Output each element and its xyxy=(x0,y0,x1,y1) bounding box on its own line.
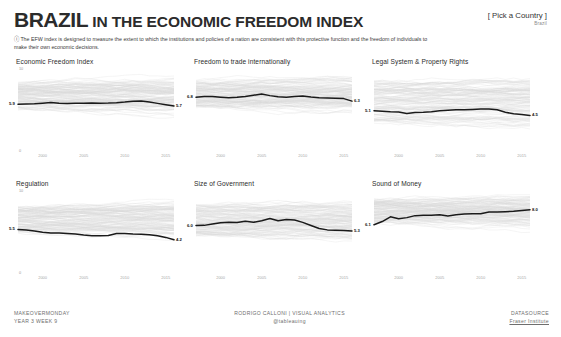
dashboard-description: ⓘ The EFW index is designed to measure t… xyxy=(14,36,434,51)
chart-title: Sound of Money xyxy=(372,180,548,187)
x-axis: 2000200520102015 xyxy=(16,153,184,163)
chart-plot[interactable]: 5.1 4.5 2000200520102015 xyxy=(372,67,540,163)
background-country-lines xyxy=(18,74,174,118)
line-chart-svg xyxy=(16,67,184,163)
start-value-label: 6.0 xyxy=(187,223,193,228)
x-axis: 2000200520102015 xyxy=(372,153,540,163)
start-value-label: 6.1 xyxy=(365,222,371,227)
chart-panel-freedom-to-trade: Freedom to trade internationally 6.8 6.3… xyxy=(192,58,370,180)
line-chart-svg xyxy=(194,189,362,285)
x-axis: 2000200520102015 xyxy=(194,153,362,163)
chart-plot[interactable]: 6.0 5.3 2000200520102015 xyxy=(194,189,362,285)
x-axis-tick-label: 2010 xyxy=(120,153,129,158)
x-axis-tick-label: 2010 xyxy=(476,275,485,280)
dashboard-header: BRAZIL IN THE ECONOMIC FREEDOM INDEX [ P… xyxy=(14,9,551,51)
chart-svg-container xyxy=(372,67,540,163)
footer-right: DATASOURCE Fraser Institute xyxy=(509,310,549,325)
line-chart-svg xyxy=(16,189,184,285)
start-value-label: 5.5 xyxy=(9,226,15,231)
x-axis-tick-label: 2000 xyxy=(38,153,47,158)
chart-title: Freedom to trade internationally xyxy=(194,58,370,65)
chart-panel-sound-of-money: Sound of Money 6.1 8.0 2000200520102015 xyxy=(370,180,548,302)
start-value-label: 5.1 xyxy=(365,108,371,113)
title-row: BRAZIL IN THE ECONOMIC FREEDOM INDEX [ P… xyxy=(14,9,551,32)
chart-title: Size of Government xyxy=(194,180,370,187)
x-axis-tick-label: 2005 xyxy=(79,275,88,280)
background-country-line xyxy=(196,107,352,112)
x-axis-tick-label: 2005 xyxy=(79,153,88,158)
country-picker-label[interactable]: [ Pick a Country ] xyxy=(488,11,547,20)
page-title-country: BRAZIL xyxy=(14,8,88,31)
footer-datasource-link[interactable]: Fraser Institute xyxy=(509,318,549,326)
x-axis: 2000200520102015 xyxy=(194,275,362,285)
chart-panel-size-of-government: Size of Government 6.0 5.3 2000200520102… xyxy=(192,180,370,302)
chart-svg-container xyxy=(194,189,362,285)
x-axis-tick-label: 2000 xyxy=(38,275,47,280)
background-country-lines xyxy=(374,195,530,233)
x-axis-tick-label: 2010 xyxy=(476,153,485,158)
line-chart-svg xyxy=(194,67,362,163)
country-picker-value[interactable]: Brazil xyxy=(488,21,547,26)
x-axis-tick-label: 2015 xyxy=(161,153,170,158)
chart-plot[interactable]: 6.8 6.3 2000200520102015 xyxy=(194,67,362,163)
footer-datasource-label: DATASOURCE xyxy=(509,310,549,318)
chart-panel-regulation: Regulation 10 0 5.5 4.2 2000200520102015 xyxy=(14,180,192,302)
footer-author: RODRIGO CALLONI | VISUAL ANALYTICS xyxy=(234,310,345,318)
end-value-label: 8.0 xyxy=(532,207,538,212)
x-axis-tick-label: 2005 xyxy=(435,153,444,158)
x-axis-tick-label: 2010 xyxy=(298,275,307,280)
chart-plot[interactable]: 10 0 5.5 4.2 2000200520102015 xyxy=(16,189,184,285)
x-axis-tick-label: 2000 xyxy=(394,275,403,280)
chart-svg-container xyxy=(16,67,184,163)
dashboard-page: BRAZIL IN THE ECONOMIC FREEDOM INDEX [ P… xyxy=(0,0,561,337)
x-axis-tick-label: 2005 xyxy=(435,275,444,280)
chart-title: Legal System & Property Rights xyxy=(372,58,548,65)
chart-plot[interactable]: 10 0 5.9 5.7 2000200520102015 xyxy=(16,67,184,163)
country-picker[interactable]: [ Pick a Country ] Brazil xyxy=(488,11,547,26)
end-value-label: 4.5 xyxy=(532,112,538,117)
x-axis: 2000200520102015 xyxy=(16,275,184,285)
line-chart-svg xyxy=(372,67,540,163)
footer-project-name: MAKEOVERMONDAY xyxy=(14,310,70,318)
x-axis-tick-label: 2010 xyxy=(120,275,129,280)
footer-handle: @tableauing xyxy=(234,318,345,326)
x-axis-tick-label: 2015 xyxy=(161,275,170,280)
line-chart-svg xyxy=(372,189,540,285)
chart-panel-legal-system: Legal System & Property Rights 5.1 4.5 2… xyxy=(370,58,548,180)
end-value-label: 4.2 xyxy=(176,237,182,242)
x-axis-tick-label: 2015 xyxy=(339,275,348,280)
chart-plot[interactable]: 6.1 8.0 2000200520102015 xyxy=(372,189,540,285)
start-value-label: 6.8 xyxy=(187,94,193,99)
background-country-lines xyxy=(196,200,352,242)
x-axis-tick-label: 2000 xyxy=(216,153,225,158)
x-axis-tick-label: 2010 xyxy=(298,153,307,158)
end-value-label: 6.3 xyxy=(354,98,360,103)
chart-svg-container xyxy=(16,189,184,285)
start-value-label: 5.9 xyxy=(9,101,15,106)
background-country-lines xyxy=(18,199,174,240)
chart-panel-economic-freedom-index: Economic Freedom Index 10 0 5.9 5.7 2000… xyxy=(14,58,192,180)
background-country-lines xyxy=(196,76,352,115)
chart-title: Economic Freedom Index xyxy=(16,58,192,65)
background-country-lines xyxy=(374,78,530,129)
footer-center: RODRIGO CALLONI | VISUAL ANALYTICS @tabl… xyxy=(234,310,345,325)
chart-svg-container xyxy=(194,67,362,163)
x-axis-tick-label: 2005 xyxy=(257,153,266,158)
x-axis: 2000200520102015 xyxy=(372,275,540,285)
footer-project-week: YEAR 3 WEEK 9 xyxy=(14,318,70,326)
page-title-rest: IN THE ECONOMIC FREEDOM INDEX xyxy=(88,13,363,30)
x-axis-tick-label: 2000 xyxy=(216,275,225,280)
footer-left: MAKEOVERMONDAY YEAR 3 WEEK 9 xyxy=(14,310,70,325)
x-axis-tick-label: 2015 xyxy=(517,153,526,158)
chart-title: Regulation xyxy=(16,180,192,187)
x-axis-tick-label: 2015 xyxy=(517,275,526,280)
chart-grid: Economic Freedom Index 10 0 5.9 5.7 2000… xyxy=(14,58,550,302)
background-country-line xyxy=(18,107,174,116)
x-axis-tick-label: 2015 xyxy=(339,153,348,158)
chart-svg-container xyxy=(372,189,540,285)
x-axis-tick-label: 2005 xyxy=(257,275,266,280)
end-value-label: 5.7 xyxy=(176,103,182,108)
dashboard-footer: MAKEOVERMONDAY YEAR 3 WEEK 9 RODRIGO CAL… xyxy=(14,310,549,325)
end-value-label: 5.3 xyxy=(354,228,360,233)
x-axis-tick-label: 2000 xyxy=(394,153,403,158)
